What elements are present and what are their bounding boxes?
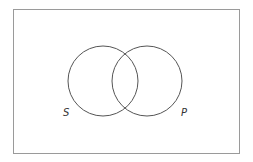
label-p: P: [181, 108, 187, 118]
universe-rectangle: [14, 10, 240, 154]
venn-diagram: [0, 0, 253, 162]
circle-p: [112, 46, 182, 116]
label-s: S: [63, 108, 69, 118]
circle-s: [68, 46, 138, 116]
